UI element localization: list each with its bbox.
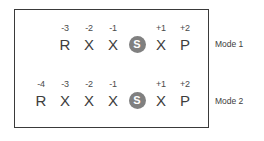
position-offset-label: -2 bbox=[85, 23, 93, 34]
position-cell: -4R bbox=[29, 79, 53, 110]
position-token: X bbox=[108, 91, 118, 110]
site-marker-icon: S bbox=[129, 36, 146, 53]
position-token: X bbox=[84, 35, 94, 54]
position-offset-label: -1 bbox=[109, 23, 117, 34]
position-cell: +2P bbox=[173, 23, 197, 54]
position-cell: -3X bbox=[53, 79, 77, 110]
position-token: P bbox=[180, 35, 190, 54]
position-cell: +2P bbox=[173, 79, 197, 110]
position-cell: +1X bbox=[149, 79, 173, 110]
mode-row-2: -4R-3X-2X-1XS+1X+2P bbox=[15, 79, 208, 117]
position-track-mode-2: -4R-3X-2X-1XS+1X+2P bbox=[29, 79, 197, 110]
mode-caption-2: Mode 2 bbox=[215, 96, 243, 107]
position-offset-label: -3 bbox=[61, 23, 69, 34]
position-cell: S bbox=[125, 23, 149, 53]
position-token: X bbox=[156, 35, 166, 54]
position-token: X bbox=[60, 91, 70, 110]
position-cell: +1X bbox=[149, 23, 173, 54]
diagram-frame: -3R-2X-1XS+1X+2P -4R-3X-2X-1XS+1X+2P bbox=[14, 9, 209, 128]
mode-row-1: -3R-2X-1XS+1X+2P bbox=[15, 23, 208, 61]
position-cell: -2X bbox=[77, 23, 101, 54]
position-offset-label: -3 bbox=[61, 79, 69, 90]
position-token: R bbox=[36, 91, 47, 110]
position-cell: -1X bbox=[101, 79, 125, 110]
position-offset-label: +1 bbox=[156, 79, 166, 90]
position-offset-label: +1 bbox=[156, 23, 166, 34]
position-offset-label: -4 bbox=[37, 79, 45, 90]
position-offset-label: +2 bbox=[180, 79, 190, 90]
position-token: R bbox=[60, 35, 71, 54]
position-token: P bbox=[180, 91, 190, 110]
position-cell: -3R bbox=[53, 23, 77, 54]
position-offset-label: -1 bbox=[109, 79, 117, 90]
position-token: X bbox=[108, 35, 118, 54]
mode-caption-1: Mode 1 bbox=[215, 39, 243, 50]
position-track-mode-1: -3R-2X-1XS+1X+2P bbox=[53, 23, 197, 54]
position-offset-label: -2 bbox=[85, 79, 93, 90]
position-cell: S bbox=[125, 79, 149, 109]
position-token: X bbox=[84, 91, 94, 110]
site-marker-icon: S bbox=[129, 92, 146, 109]
position-cell: -2X bbox=[77, 79, 101, 110]
position-token: X bbox=[156, 91, 166, 110]
position-cell: -1X bbox=[101, 23, 125, 54]
position-offset-label: +2 bbox=[180, 23, 190, 34]
